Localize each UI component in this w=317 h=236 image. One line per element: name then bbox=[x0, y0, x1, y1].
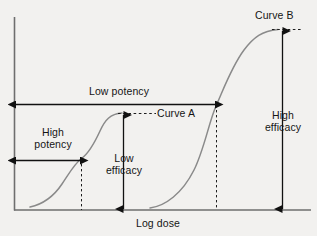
high-potency-label-line1: High bbox=[42, 126, 64, 138]
curve-b-label: Curve B bbox=[255, 10, 309, 22]
low-efficacy-label-line1: Low bbox=[114, 152, 134, 164]
high-potency-label-line2: potency bbox=[34, 138, 71, 150]
curve-a-label: Curve A bbox=[157, 108, 211, 120]
low-potency-label: Low potency bbox=[84, 86, 154, 98]
high-efficacy-label-line1: High bbox=[272, 109, 294, 121]
dose-response-diagram: Low potency Highpotency Lowefficacy High… bbox=[0, 0, 317, 236]
low-efficacy-label: Lowefficacy bbox=[92, 153, 156, 176]
high-efficacy-label: Highefficacy bbox=[250, 110, 316, 133]
low-efficacy-label-line2: efficacy bbox=[106, 164, 142, 176]
high-potency-label: Highpotency bbox=[22, 127, 84, 150]
high-efficacy-label-line2: efficacy bbox=[265, 121, 301, 133]
x-axis-label: Log dose bbox=[123, 218, 193, 230]
